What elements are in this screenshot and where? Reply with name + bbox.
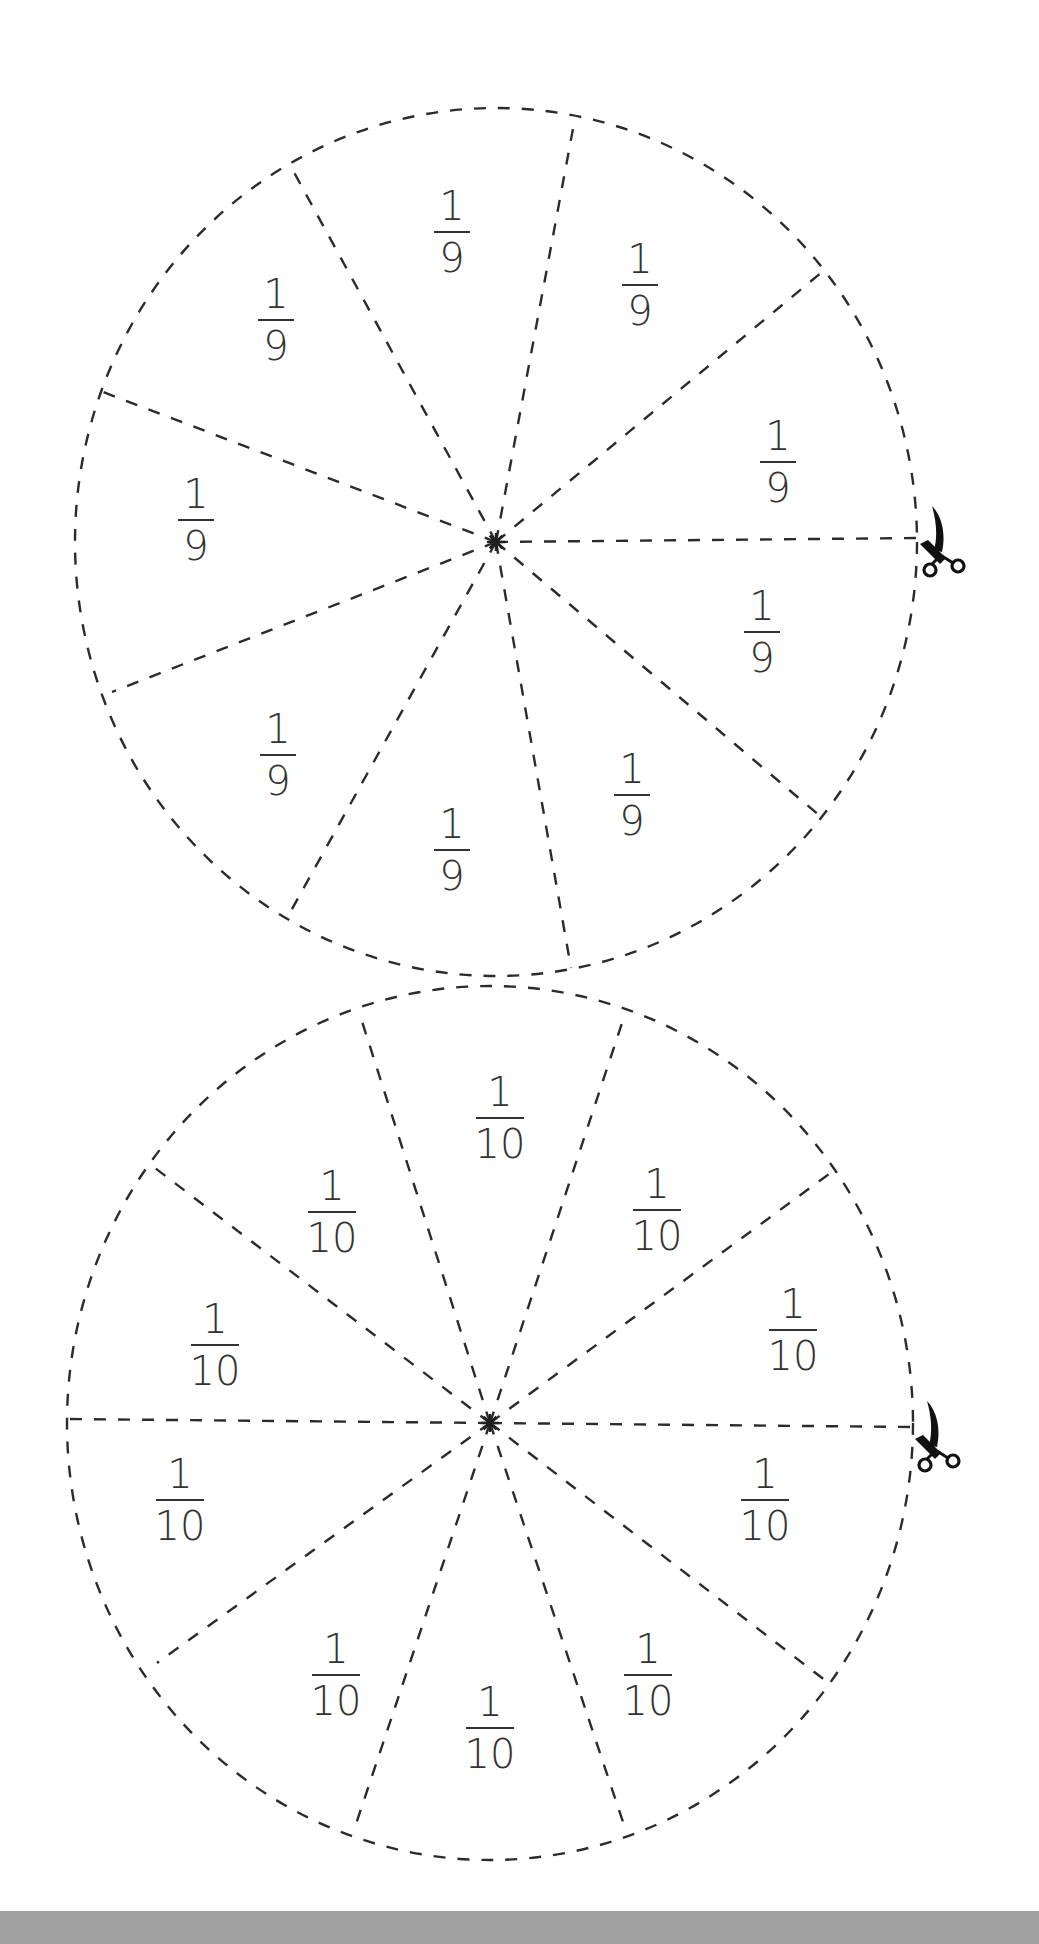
dashed-sector-divider [103, 392, 496, 542]
fraction-numerator: 1 [439, 183, 464, 229]
asterisk-center-icon [481, 1414, 499, 1432]
fraction-label: 110 [740, 1451, 791, 1549]
fraction-numerator: 1 [487, 1069, 512, 1115]
fraction-denominator: 10 [190, 1348, 241, 1394]
fraction-denominator: 10 [155, 1503, 206, 1549]
dashed-sector-divider [290, 165, 496, 542]
fraction-denominator: 10 [623, 1678, 674, 1724]
fraction-denominator: 10 [307, 1215, 358, 1261]
fraction-denominator: 9 [439, 853, 464, 899]
fraction-denominator: 9 [765, 465, 790, 511]
fraction-denominator: 9 [619, 798, 644, 844]
fraction-label: 110 [190, 1296, 241, 1394]
dashed-sector-divider [67, 1419, 490, 1423]
fraction-denominator: 9 [439, 235, 464, 281]
fraction-label: 19 [744, 583, 780, 681]
fraction-label: 19 [434, 801, 470, 899]
fraction-label: 19 [614, 746, 650, 844]
fraction-denominator: 10 [311, 1678, 362, 1724]
dashed-sector-divider [359, 1012, 490, 1423]
fraction-label: 110 [307, 1163, 358, 1261]
scissors-icon [915, 1401, 959, 1471]
fraction-numerator: 1 [265, 706, 290, 752]
fraction-label: 110 [155, 1451, 206, 1549]
fraction-numerator: 1 [635, 1626, 660, 1672]
fraction-numerator: 1 [765, 413, 790, 459]
fraction-label: 19 [760, 413, 796, 511]
fraction-denominator: 9 [183, 523, 208, 569]
fraction-numerator: 1 [202, 1296, 227, 1342]
dashed-sector-divider [490, 1423, 913, 1427]
fraction-label: 110 [465, 1679, 516, 1777]
fraction-denominator: 10 [632, 1213, 683, 1259]
fraction-numerator: 1 [439, 801, 464, 847]
fraction-denominator: 10 [740, 1503, 791, 1549]
fraction-denominator: 9 [749, 635, 774, 681]
fraction-label: 19 [258, 271, 294, 369]
fraction-numerator: 1 [644, 1161, 669, 1207]
scissors-icon [920, 506, 964, 576]
fraction-numerator: 1 [167, 1451, 192, 1497]
ninths-fraction-circle: 191919191919191919 [75, 108, 964, 976]
fraction-denominator: 9 [263, 323, 288, 369]
fraction-label: 110 [623, 1626, 674, 1724]
fraction-numerator: 1 [319, 1163, 344, 1209]
fraction-label: 110 [311, 1626, 362, 1724]
fraction-label: 110 [768, 1281, 819, 1379]
fraction-numerator: 1 [749, 583, 774, 629]
fraction-denominator: 10 [465, 1731, 516, 1777]
fraction-label: 19 [178, 471, 214, 569]
dashed-sector-divider [496, 542, 571, 968]
fraction-denominator: 9 [265, 758, 290, 804]
footer-band [0, 1911, 1039, 1944]
dashed-sector-divider [490, 1174, 829, 1423]
fraction-numerator: 1 [183, 471, 208, 517]
fraction-label: 110 [475, 1069, 526, 1167]
fraction-denominator: 10 [475, 1121, 526, 1167]
fraction-label: 19 [260, 706, 296, 804]
fraction-label: 19 [434, 183, 470, 281]
fraction-numerator: 1 [477, 1679, 502, 1725]
dashed-sector-divider [496, 118, 575, 542]
fraction-numerator: 1 [752, 1451, 777, 1497]
fraction-label: 19 [622, 236, 658, 334]
fraction-numerator: 1 [619, 746, 644, 792]
asterisk-center-icon [487, 533, 505, 551]
fraction-numerator: 1 [627, 236, 652, 282]
tenths-fraction-circle: 110110110110110110110110110110 [67, 986, 959, 1860]
dashed-sector-divider [112, 542, 496, 692]
fraction-numerator: 1 [263, 271, 288, 317]
fraction-label: 110 [632, 1161, 683, 1259]
fraction-denominator: 9 [627, 288, 652, 334]
fraction-circles-worksheet: 191919191919191919 110110110110110110110… [0, 0, 1039, 1944]
fraction-numerator: 1 [780, 1281, 805, 1327]
fraction-denominator: 10 [768, 1333, 819, 1379]
fraction-numerator: 1 [323, 1626, 348, 1672]
dashed-sector-divider [496, 538, 918, 542]
